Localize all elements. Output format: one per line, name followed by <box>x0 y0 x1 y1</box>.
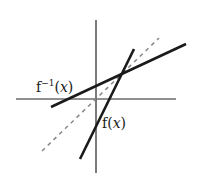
function-inverse-diagram: f−1(x) f(x) <box>0 0 200 173</box>
f-inverse-line <box>51 44 186 107</box>
f-label: f(x) <box>102 115 126 131</box>
f-line <box>80 49 134 159</box>
f-inverse-label: f−1(x) <box>36 78 73 95</box>
